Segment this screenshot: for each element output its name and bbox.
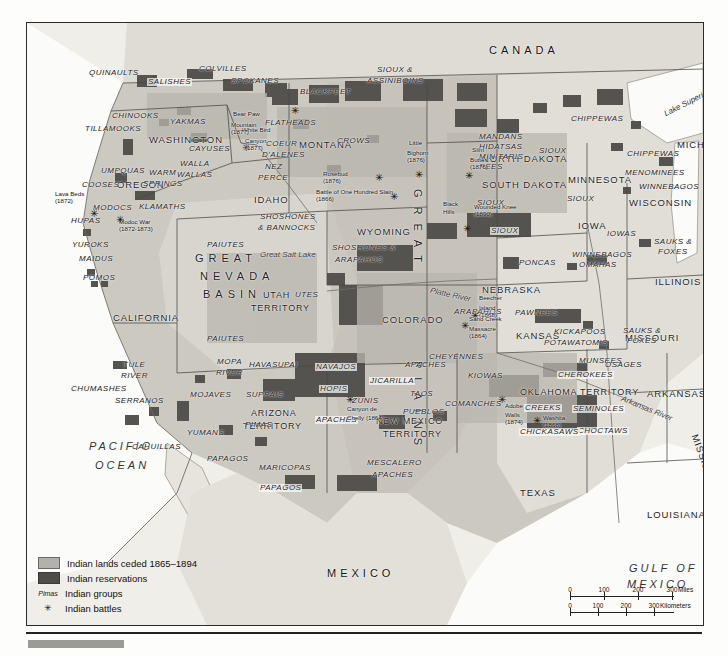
tribe-label-suppais: SUPPAIS: [246, 391, 284, 399]
tribe-label-arapahos: ARAPAHOS: [335, 256, 383, 264]
tribe-label-quinaults: QUINAULTS: [89, 69, 139, 77]
battle-year-walls: (1874): [505, 419, 523, 426]
scale-km-tick-0: 0: [568, 602, 572, 609]
tribe-label-walla: WALLA: [180, 160, 209, 168]
territory-label-arizona: ARIZONA: [251, 409, 297, 418]
tribe-label-coeur: COEUR: [266, 140, 297, 148]
country-label-canada: CANADA: [489, 45, 559, 56]
scale-km-tick-2: 200: [621, 602, 632, 609]
tribe-label-comanches: COMANCHES: [445, 400, 502, 408]
territory-label-utah: UTAH: [263, 291, 290, 300]
map-frame: CANADAMEXICOPACIFICOCEANGULF OFMEXICOLak…: [26, 22, 704, 626]
tribe-label-cayuses: CAYUSES: [189, 145, 230, 153]
tribe-label-pimas: PIMAS: [245, 421, 272, 429]
tribe-label-klamaths: KLAMATHS: [139, 203, 186, 211]
tribe-label-sioux: SIOUX &: [377, 66, 413, 74]
battle-year-bighorn: (1876): [407, 157, 425, 164]
tribe-label-cooses: COOSES: [82, 181, 119, 189]
legend-item-battles: ✳ Indian battles: [38, 601, 288, 615]
tribe-label-papagos: PAPAGOS: [259, 484, 302, 492]
battle-label-bear-paw: Bear Paw: [233, 111, 260, 118]
scale-bars: 0 100 200 300 Miles 0 100 200 300 Kilome…: [566, 588, 696, 620]
tribe-label-winnebagos: WINNEBAGOS: [639, 183, 699, 191]
battle-star-adobe: [497, 395, 506, 404]
scale-km-tick-3: 300: [649, 602, 660, 609]
tribe-label-zunis: ZUNIS: [352, 397, 379, 405]
tribe-label-foxes: FOXES: [658, 248, 688, 256]
tribe-label-creeks: CREEKS: [524, 404, 562, 412]
battle-year-lava-beds: (1872): [55, 198, 73, 205]
battle-label-little: Little: [409, 140, 422, 147]
tribe-label-sioux: SIOUX: [539, 147, 566, 155]
battle-star-icon: ✳: [38, 603, 58, 613]
tribe-label-hidatsas: HIDATSAS: [479, 143, 522, 151]
tribe-label-pueblos: PUEBLOS: [403, 408, 444, 416]
state-label-idaho: IDAHO: [254, 195, 289, 205]
legend-label-ceded: Indian lands ceded 1865–1894: [67, 558, 197, 569]
tribe-label-chippewas: CHIPPEWAS: [571, 115, 623, 123]
state-label-louisiana: LOUISIANA: [647, 510, 704, 520]
tribe-label-shoshones: SHOSHONES: [260, 213, 316, 221]
battle-label-adobe: Adobe: [505, 403, 523, 410]
tribe-label-seminoles: SEMINOLES: [572, 405, 625, 413]
battle-star-rosebud: [374, 173, 383, 182]
battle-year-massacre: (1864): [469, 333, 487, 340]
tribe-label-tillamooks: TILLAMOOKS: [85, 125, 141, 133]
map-page: CANADAMEXICOPACIFICOCEANGULF OFMEXICOLak…: [0, 0, 728, 656]
tribe-label-utes: UTES: [295, 291, 318, 299]
region-label-great: GREAT: [195, 253, 257, 264]
state-label-minnesota: MINNESOTA: [568, 175, 632, 185]
bottom-rule: [26, 632, 702, 634]
battle-star-sand-creek: [460, 321, 469, 330]
ocean-label-ocean: OCEAN: [95, 460, 149, 471]
bottom-grey-tab: [28, 640, 124, 648]
battle-label-chelly-1864: Chelly (1864): [347, 415, 384, 422]
tribe-label-yumans: YUMANS: [187, 429, 224, 437]
state-label-colorado: COLORADO: [382, 315, 444, 325]
battle-year-canyon: (1877): [245, 145, 263, 152]
tribe-label-osages: OSAGES: [605, 361, 642, 369]
battle-star-slim: [464, 171, 473, 180]
tribe-label-potawatomis: POTAWATOMIS: [544, 339, 608, 347]
tribe-name-sample: Pimas: [38, 590, 58, 597]
reservation-swatch: [38, 572, 60, 584]
tribe-label-warm: WARM: [149, 169, 176, 177]
tribe-label-maricopas: MARICOPAS: [259, 464, 311, 472]
tribe-label-iowas: IOWAS: [607, 230, 636, 238]
tribe-label-umpquas: UMPQUAS: [101, 167, 145, 175]
battle-year-battle-of-one-hundred-slain: (1866): [316, 196, 334, 203]
region-label-nevada: NEVADA: [200, 271, 274, 282]
tribe-label-crows: CROWS: [337, 137, 370, 145]
tribe-label-tule: TULE: [123, 361, 145, 369]
tribe-label-navajos: NAVAJOS: [315, 363, 357, 371]
scale-km-line: [570, 612, 674, 613]
territory-label-territory: TERRITORY: [251, 304, 310, 313]
tribe-label-jicarilla: JICARILLA: [369, 377, 415, 385]
tribe-label-sauks: SAUKS &: [654, 238, 692, 246]
scale-miles-tick-3: 300: [667, 586, 678, 593]
battle-label-black: Black: [443, 201, 458, 208]
tribe-label-foxes: FOXES: [627, 337, 657, 345]
battle-star-little: [414, 170, 423, 179]
battle-label-canyon-de: Canyon de: [347, 406, 377, 413]
scale-miles-tick-1: 100: [599, 586, 610, 593]
tribe-label-assiniboins: ASSINIBOINS: [367, 77, 424, 85]
tribe-label-river: RIVER: [216, 369, 243, 377]
tribe-label-apaches: APACHES: [372, 471, 413, 479]
state-label-south-dakota: SOUTH DAKOTA: [482, 180, 567, 190]
tribe-label-chinooks: CHINOOKS: [112, 112, 159, 120]
tribe-label-sioux: SIOUX: [567, 195, 594, 203]
tribe-label-bannocks: & BANNOCKS: [258, 224, 315, 232]
tribe-label-mandans: MANDANS: [479, 133, 523, 141]
tribe-label-flatheads: FLATHEADS: [265, 119, 316, 127]
legend-item-ceded: Indian lands ceded 1865–1894: [38, 556, 288, 570]
tribe-label-omahas: OMAHAS: [579, 261, 617, 269]
tribe-label-springs: SPRINGS: [143, 180, 183, 188]
scale-miles-tick-0: 0: [568, 586, 572, 593]
tribe-label-poncas: PONCAS: [519, 259, 556, 267]
state-label-texas: TEXAS: [520, 488, 556, 498]
region-label-great: GREAT: [412, 189, 423, 271]
battle-star-bear-paw: [290, 106, 299, 115]
scale-miles-unit: Miles: [678, 586, 693, 593]
tribe-label-chumashes: CHUMASHES: [71, 385, 127, 393]
